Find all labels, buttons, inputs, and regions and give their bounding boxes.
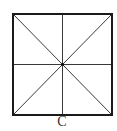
center-point xyxy=(61,63,64,66)
figure-label: C xyxy=(0,114,117,130)
diagram-canvas: C xyxy=(0,0,117,131)
square-diagram xyxy=(0,0,117,131)
